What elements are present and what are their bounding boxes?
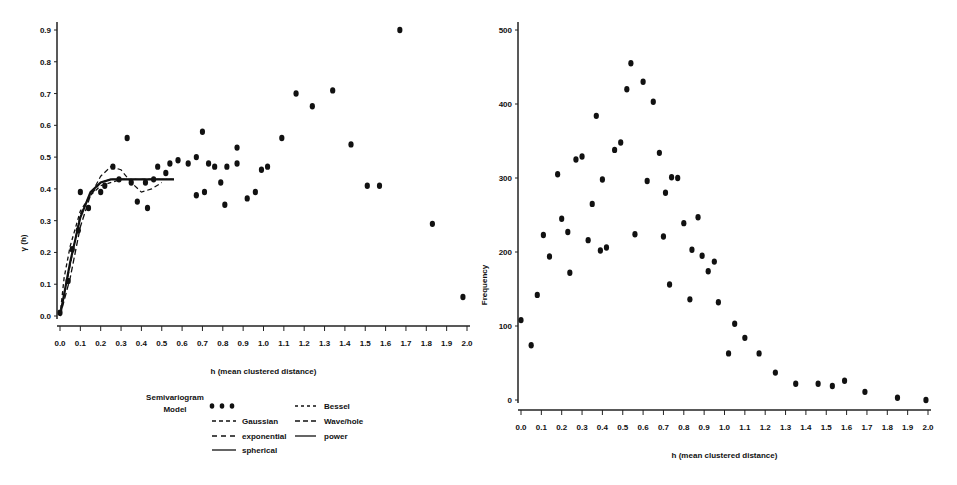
- data-point: [559, 216, 564, 222]
- frequency-chart: 0.00.10.20.30.40.50.60.70.80.91.01.11.21…: [480, 22, 934, 460]
- semivariogram-chart: 0.00.10.20.30.40.50.60.70.80.91.01.11.21…: [19, 22, 473, 376]
- model-curve-spherical: [60, 179, 174, 316]
- data-point: [330, 87, 335, 93]
- y-tick-label: 0: [508, 396, 513, 405]
- legend-dots-icon: [220, 403, 225, 409]
- data-point: [186, 160, 191, 166]
- legend-label: Bessel: [324, 402, 350, 411]
- legend-label: spherical: [242, 446, 277, 455]
- legend-label: exponential: [242, 432, 286, 441]
- data-point: [397, 27, 402, 33]
- y-tick-label: 0.2: [40, 248, 52, 257]
- data-point: [76, 227, 81, 233]
- model-curve-exponential: [60, 179, 174, 316]
- data-point: [687, 296, 692, 302]
- x-tick-label: 1.4: [339, 339, 351, 348]
- data-point: [573, 156, 578, 162]
- data-point: [259, 167, 264, 173]
- x-tick-label: 1.5: [821, 423, 833, 432]
- data-point: [86, 205, 91, 211]
- data-point: [667, 281, 672, 287]
- data-point: [265, 163, 270, 169]
- y-tick-label: 400: [499, 100, 513, 109]
- data-point: [541, 232, 546, 238]
- legend-dots-icon: [210, 403, 215, 409]
- data-point: [895, 395, 900, 401]
- data-point: [155, 163, 160, 169]
- y-tick-label: 0.9: [40, 26, 52, 35]
- data-point: [732, 321, 737, 327]
- legend-title: Semivariogram: [146, 393, 204, 402]
- data-point: [547, 253, 552, 259]
- data-point: [163, 170, 168, 176]
- data-point: [310, 103, 315, 109]
- data-point: [102, 183, 107, 189]
- x-tick-label: 1.3: [780, 423, 792, 432]
- x-tick-label: 1.1: [739, 423, 751, 432]
- data-point: [535, 292, 540, 298]
- x-tick-label: 0.7: [658, 423, 670, 432]
- y-tick-label: 0.0: [40, 312, 52, 321]
- data-point: [224, 163, 229, 169]
- data-point: [202, 189, 207, 195]
- data-point: [830, 383, 835, 389]
- x-tick-label: 1.7: [400, 339, 412, 348]
- data-point: [110, 163, 115, 169]
- x-tick-label: 0.1: [75, 339, 87, 348]
- data-point: [222, 202, 227, 208]
- data-point: [712, 258, 717, 264]
- data-point: [129, 179, 134, 185]
- legend-title: Model: [163, 405, 186, 414]
- data-point: [600, 176, 605, 182]
- data-point: [618, 139, 623, 145]
- x-tick-label: 1.8: [882, 423, 894, 432]
- data-point: [663, 190, 668, 196]
- data-point: [194, 192, 199, 198]
- data-point: [348, 141, 353, 147]
- data-point: [594, 113, 599, 119]
- x-tick-label: 1.1: [278, 339, 290, 348]
- data-point: [200, 128, 205, 134]
- data-point: [167, 160, 172, 166]
- data-point: [624, 86, 629, 92]
- data-point: [78, 189, 83, 195]
- x-tick-label: 0.1: [536, 423, 548, 432]
- y-tick-label: 0.4: [40, 185, 52, 194]
- x-tick-label: 0.2: [95, 339, 107, 348]
- data-point: [377, 183, 382, 189]
- x-tick-label: 1.3: [319, 339, 331, 348]
- data-point: [567, 270, 572, 276]
- data-point: [98, 189, 103, 195]
- data-point: [645, 178, 650, 184]
- x-tick-label: 2.0: [922, 423, 934, 432]
- data-point: [842, 378, 847, 384]
- y-tick-label: 0.8: [40, 58, 52, 67]
- x-tick-label: 0.4: [136, 339, 148, 348]
- x-tick-label: 0.9: [238, 339, 250, 348]
- data-point: [862, 389, 867, 395]
- legend-dots-icon: [230, 403, 235, 409]
- x-tick-label: 0.9: [699, 423, 711, 432]
- x-tick-label: 1.0: [719, 423, 731, 432]
- x-tick-label: 1.0: [258, 339, 270, 348]
- x-tick-label: 1.2: [760, 423, 772, 432]
- data-point: [529, 342, 534, 348]
- data-point: [212, 163, 217, 169]
- data-point: [279, 135, 284, 141]
- data-point: [218, 179, 223, 185]
- data-point: [598, 247, 603, 253]
- data-point: [430, 221, 435, 227]
- data-point: [669, 174, 674, 180]
- data-point: [689, 247, 694, 253]
- x-tick-label: 0.7: [197, 339, 209, 348]
- data-point: [706, 268, 711, 274]
- x-tick-label: 1.5: [360, 339, 372, 348]
- x-tick-label: 1.4: [800, 423, 812, 432]
- y-axis-label: γ (h): [19, 234, 28, 251]
- legend-label: Wave/hole: [324, 417, 364, 426]
- data-point: [586, 237, 591, 243]
- data-point: [695, 214, 700, 220]
- x-tick-label: 0.5: [156, 339, 168, 348]
- data-point: [675, 175, 680, 181]
- x-tick-label: 1.2: [299, 339, 311, 348]
